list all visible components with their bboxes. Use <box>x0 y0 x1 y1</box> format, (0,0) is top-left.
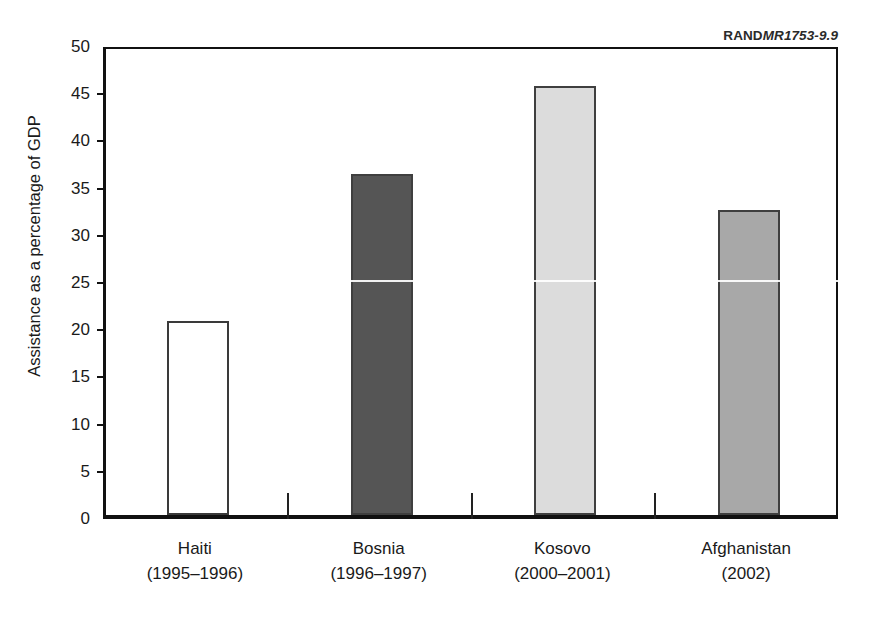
bar-haiti <box>167 321 229 515</box>
source-credit: RANDMR1753-9.9 <box>723 28 838 43</box>
y-axis-tick-label: 25 <box>30 273 90 293</box>
y-axis-tick-label: 10 <box>30 415 90 435</box>
y-axis-tick-label: 0 <box>30 509 90 529</box>
bar-afghanistan <box>718 210 780 515</box>
category-period: (1996–1997) <box>330 562 426 587</box>
bar-kosovo <box>534 86 596 515</box>
category-name: Haiti <box>178 539 212 558</box>
plot-area <box>106 49 836 515</box>
x-axis-label-afghanistan: Afghanistan(2002) <box>701 537 791 586</box>
category-name: Kosovo <box>534 539 591 558</box>
bar-bosnia <box>351 174 413 515</box>
category-period: (1995–1996) <box>147 562 243 587</box>
category-period: (2002) <box>701 562 791 587</box>
x-axis-label-kosovo: Kosovo(2000–2001) <box>514 537 610 586</box>
y-axis-tick-label: 35 <box>30 179 90 199</box>
source-organization: RAND <box>723 28 762 43</box>
plot-frame <box>103 47 838 519</box>
y-axis-tick-label: 40 <box>30 131 90 151</box>
category-period: (2000–2001) <box>514 562 610 587</box>
y-axis-tick-label: 30 <box>30 226 90 246</box>
category-name: Bosnia <box>353 539 405 558</box>
x-axis-separator-tick <box>287 493 289 519</box>
y-axis-tick-label: 15 <box>30 367 90 387</box>
category-name: Afghanistan <box>701 539 791 558</box>
x-axis-label-haiti: Haiti(1995–1996) <box>147 537 243 586</box>
y-axis-tick-label: 20 <box>30 320 90 340</box>
x-axis-separator-tick <box>471 493 473 519</box>
y-axis-tick-label: 45 <box>30 84 90 104</box>
source-document-id: MR1753-9.9 <box>763 28 838 43</box>
figure-bar-chart: RANDMR1753-9.9 Assistance as a percentag… <box>0 0 872 618</box>
x-axis-separator-tick <box>654 493 656 519</box>
y-axis-tick-label: 5 <box>30 462 90 482</box>
y-axis-tick-label: 50 <box>30 37 90 57</box>
x-axis-label-bosnia: Bosnia(1996–1997) <box>330 537 426 586</box>
